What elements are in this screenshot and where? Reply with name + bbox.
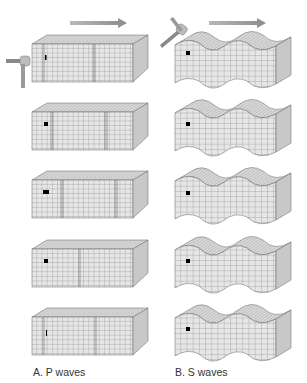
s-wave-frame-1 [175, 31, 291, 88]
p-wave-frame-2 [32, 103, 148, 150]
direction-arrow-icon [70, 18, 127, 28]
particle-marker-icon [186, 327, 190, 331]
particle-marker-icon [186, 51, 190, 55]
particle-marker-icon [43, 190, 49, 194]
p-wave-frame-5 [32, 308, 148, 355]
particle-marker-icon [186, 259, 190, 263]
s-wave-frame-5 [175, 304, 291, 361]
direction-arrow-icon [209, 18, 266, 28]
particle-marker-icon [46, 330, 47, 336]
s-wave-frame-2 [175, 99, 291, 156]
s-wave-frame-3 [175, 167, 291, 224]
seismic-waves-diagram [0, 0, 307, 383]
p-wave-frame-1 [32, 35, 148, 82]
particle-marker-icon [44, 259, 48, 263]
particle-marker-icon [186, 191, 190, 195]
particle-marker-icon [45, 55, 47, 60]
caption-p-waves: A. P waves [33, 366, 85, 378]
particle-marker-icon [186, 122, 190, 126]
p-wave-frame-4 [32, 240, 148, 287]
caption-s-waves: B. S waves [175, 366, 228, 378]
particle-marker-icon [44, 122, 48, 126]
p-wave-frame-3 [32, 171, 148, 218]
s-wave-frame-4 [175, 236, 291, 293]
hammer-icon [6, 56, 30, 88]
